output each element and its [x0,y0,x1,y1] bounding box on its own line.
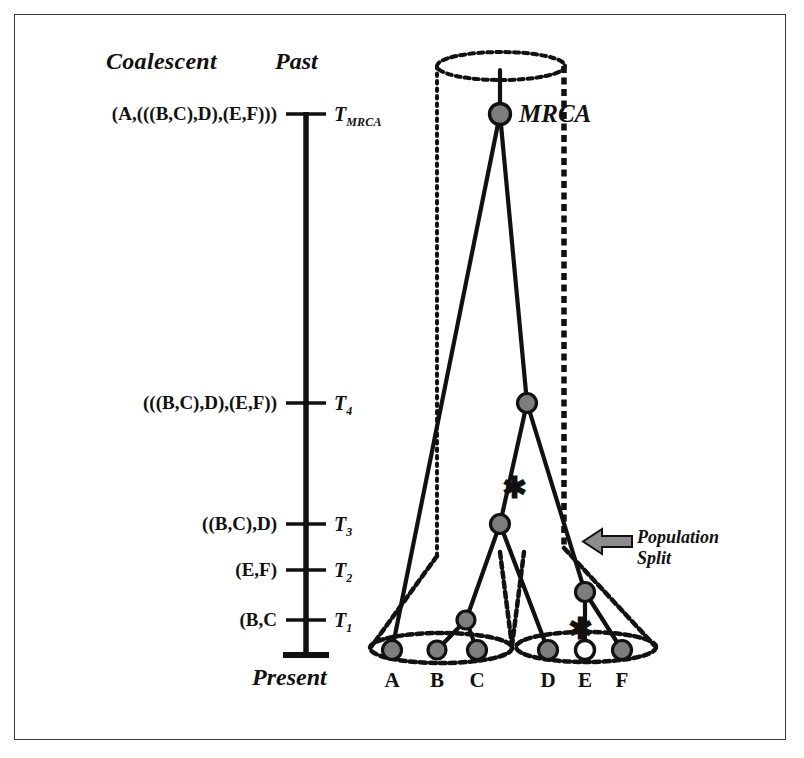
time-label-t3: T3 [334,513,352,540]
tip-label-C: C [462,668,492,693]
topology-label-t3: ((B,C),D) [0,513,277,535]
tip-label-B: B [422,668,452,693]
time-label-t1-sub: 1 [346,621,352,635]
mutation-asterisk-lower: ✱ [568,611,593,646]
node-t2 [576,583,595,602]
branch-t3-to-D [500,524,548,650]
node-mrca [490,104,511,125]
time-label-tmrca-sub: MRCA [346,115,381,129]
time-label-t2: T2 [334,559,352,586]
time-label-t3-sub: 3 [346,525,352,539]
node-t4 [518,394,537,413]
tip-label-A: A [377,668,407,693]
branch-t3-to-t1 [466,524,500,620]
time-label-t1-base: T [334,609,346,631]
left-funnel-wall-inner [500,552,512,646]
time-label-t1: T1 [334,609,352,636]
tip-node-A [383,641,402,660]
tip-label-E: E [570,668,600,693]
figure-canvas: Coalescent Past Present (A,(((B,C),D),(E… [0,0,804,758]
node-t1 [457,611,475,629]
time-label-t4-base: T [334,392,346,414]
gene-tree-branches [392,70,622,650]
topology-label-t2: (E,F) [0,559,277,581]
population-split-line1: Population [637,527,719,548]
node-t3 [491,515,510,534]
topology-label-t1: (B,C [0,609,277,631]
topology-label-tmrca: (A,(((B,C),D),(E,F))) [0,103,277,125]
time-label-tmrca-base: T [334,103,346,125]
past-header: Past [275,48,318,75]
time-label-t4: T4 [334,392,352,419]
time-label-tmrca: TMRCA [334,103,382,130]
tip-label-F: F [607,668,637,693]
branch-t4-to-t3 [500,403,527,524]
coalescent-header: Coalescent [106,48,217,75]
topology-label-t4: (((B,C),D),(E,F)) [0,392,277,414]
time-label-t2-base: T [334,559,346,581]
time-label-t4-sub: 4 [346,404,352,418]
tip-node-B [428,641,446,659]
tip-node-C [468,641,487,660]
tip-label-D: D [533,668,563,693]
time-label-t3-base: T [334,513,346,535]
population-split-arrow [583,529,632,554]
tip-node-F [613,641,632,660]
present-header: Present [252,664,327,691]
branch-mrca-to-t4 [500,114,527,403]
mrca-label: MRCA [519,100,591,128]
population-split-line2: Split [637,548,719,569]
population-split-label: Population Split [637,527,719,568]
time-axis [283,112,329,656]
mutation-asterisk-upper: ✱ [502,470,527,505]
time-label-t2-sub: 2 [346,571,352,585]
branch-t4-to-t2 [527,403,585,592]
tip-node-D [539,641,558,660]
